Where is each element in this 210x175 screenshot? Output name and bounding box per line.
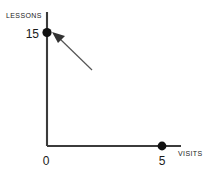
coordinate-graph: LESSONS VISITS 15 5 0 <box>0 0 210 175</box>
x-axis-title: VISITS <box>178 150 203 157</box>
data-point-y-intercept[interactable] <box>42 28 51 37</box>
origin-label: 0 <box>43 154 50 168</box>
arrow-shaft <box>58 37 92 70</box>
y-tick-label-15: 15 <box>26 27 40 41</box>
annotation-arrow <box>52 32 92 70</box>
data-point-x-intercept[interactable] <box>158 142 167 151</box>
y-axis-title: LESSONS <box>6 12 42 19</box>
chart-canvas: LESSONS VISITS 15 5 0 <box>0 0 210 175</box>
x-tick-label-5: 5 <box>159 154 166 168</box>
